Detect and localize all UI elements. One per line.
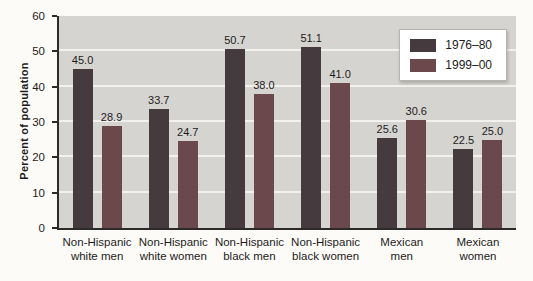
bar-value-label: 41.0 xyxy=(329,68,350,80)
bar: 25.6 xyxy=(377,138,397,228)
bar: 38.0 xyxy=(254,94,274,228)
bar-chart-figure: Percent of population 0102030405060 45.0… xyxy=(0,0,533,281)
bar-value-label: 51.1 xyxy=(300,32,321,44)
bar-group: 50.738.0 xyxy=(211,16,287,228)
bar: 50.7 xyxy=(225,49,245,228)
x-category-label: Non-Hispanicblack women xyxy=(288,235,364,264)
bar: 41.0 xyxy=(330,83,350,228)
legend: 1976–801999–00 xyxy=(399,29,507,81)
y-tick-label: 10 xyxy=(32,187,45,199)
bar-value-label: 24.7 xyxy=(177,126,198,138)
bar: 25.0 xyxy=(482,140,502,228)
x-category-label: Non-Hispanicwhite women xyxy=(135,235,211,264)
bar-group: 51.141.0 xyxy=(288,16,364,228)
legend-label: 1999–00 xyxy=(445,58,492,72)
y-axis: 0102030405060 xyxy=(0,16,57,228)
legend-item: 1999–00 xyxy=(410,58,492,72)
bar-value-label: 25.6 xyxy=(377,123,398,135)
bar: 30.6 xyxy=(406,120,426,228)
y-tick-label: 50 xyxy=(32,45,45,57)
y-tick-label: 30 xyxy=(32,116,45,128)
bar-group: 45.028.9 xyxy=(59,16,135,228)
bar-value-label: 50.7 xyxy=(224,34,245,46)
bar-value-label: 38.0 xyxy=(253,79,274,91)
x-category-label: Non-Hispanicwhite men xyxy=(59,235,135,264)
y-tick-label: 40 xyxy=(32,81,45,93)
legend-swatch xyxy=(410,59,436,72)
bar: 24.7 xyxy=(178,141,198,228)
x-category-label: Mexicanmen xyxy=(364,235,440,264)
bar: 33.7 xyxy=(149,109,169,228)
legend-swatch xyxy=(410,39,436,52)
legend-item: 1976–80 xyxy=(410,38,492,52)
y-tick-label: 60 xyxy=(32,10,45,22)
bar: 45.0 xyxy=(73,69,93,228)
y-tick-label: 0 xyxy=(39,222,45,234)
bar-value-label: 33.7 xyxy=(148,94,169,106)
bar-group: 33.724.7 xyxy=(135,16,211,228)
bar: 28.9 xyxy=(102,126,122,228)
x-category-label: Mexicanwomen xyxy=(440,235,516,264)
x-axis-labels: Non-Hispanicwhite menNon-Hispanicwhite w… xyxy=(59,235,516,264)
bar-value-label: 22.5 xyxy=(453,134,474,146)
bar-value-label: 45.0 xyxy=(72,54,93,66)
bar-value-label: 30.6 xyxy=(406,105,427,117)
plot-area: 45.028.933.724.750.738.051.141.025.630.6… xyxy=(57,16,516,230)
y-tick-label: 20 xyxy=(32,151,45,163)
legend-label: 1976–80 xyxy=(445,38,492,52)
bar: 51.1 xyxy=(301,47,321,228)
bar-value-label: 25.0 xyxy=(482,125,503,137)
x-category-label: Non-Hispanicblack men xyxy=(211,235,287,264)
bar-value-label: 28.9 xyxy=(101,111,122,123)
bar: 22.5 xyxy=(453,149,473,229)
